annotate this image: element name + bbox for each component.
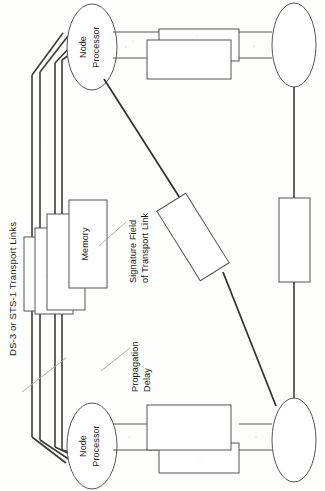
node-processor-bottom: Node Processor — [67, 403, 117, 489]
memory-label: Memory — [80, 227, 90, 261]
right-link-box — [279, 198, 310, 282]
ellipse-bottom-right — [272, 398, 316, 482]
speckle-3 — [196, 35, 197, 36]
speckle-9 — [47, 151, 48, 152]
annotation-transport-links: DS-3 or STS-1 Transport Links — [7, 222, 18, 356]
signature-field-label-line1: Signature Field — [128, 220, 138, 283]
bottom-chain-box-front — [147, 405, 231, 450]
diagram-canvas: Memory Node Processor Node Processor — [0, 0, 325, 491]
node-processor-bottom-label-line1: Node — [78, 435, 88, 457]
node-processor-top: Node Processor — [67, 4, 117, 90]
speckle-5 — [128, 436, 129, 437]
propagation-delay-label-line2: Delay — [142, 368, 152, 392]
speckle-6 — [199, 459, 200, 460]
network-diagram: Memory Node Processor Node Processor — [0, 0, 325, 491]
transport-links-label: DS-3 or STS-1 Transport Links — [7, 222, 18, 356]
node-processor-top-label-line1: Node — [78, 36, 88, 58]
ellipse-bottom-right-group — [272, 398, 316, 482]
top-chain-box-front — [147, 40, 231, 79]
signature-field-label-line2: of Transport Link — [140, 213, 150, 283]
speckle-1 — [125, 46, 126, 47]
ellipse-top-right — [272, 3, 316, 87]
speckle-10 — [43, 371, 44, 372]
node-processor-top-label-line2: Processor — [91, 26, 101, 67]
propagation-delay-label-line1: Propagation — [130, 341, 140, 392]
speckle-2 — [132, 40, 133, 41]
speckle-8 — [43, 274, 44, 275]
speckle-4 — [253, 45, 254, 46]
speckle-7 — [255, 436, 256, 437]
node-processor-bottom-label-line2: Processor — [91, 425, 101, 466]
ellipse-top-right-group — [272, 3, 316, 87]
